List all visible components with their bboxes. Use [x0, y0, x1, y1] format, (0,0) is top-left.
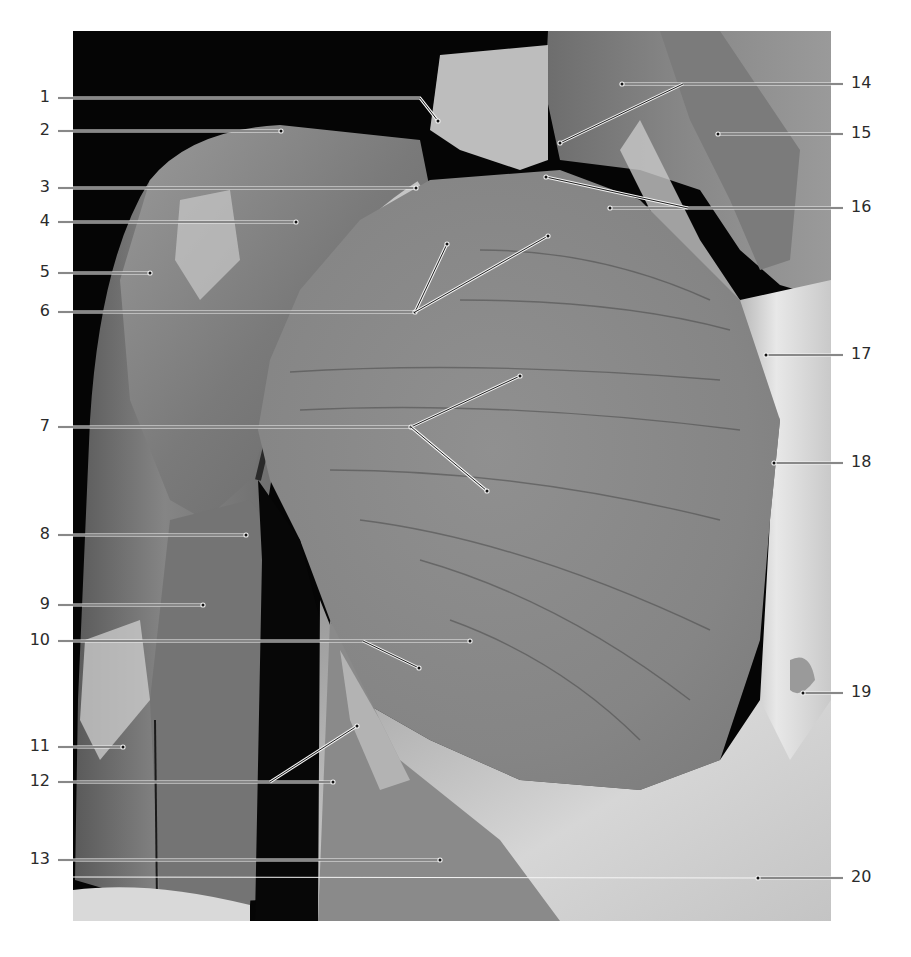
leader-endpoint-3 — [415, 187, 418, 190]
label-number-14: 14 — [851, 75, 891, 91]
leader-endpoint-6-0 — [446, 243, 449, 246]
leader-endpoint-9 — [202, 604, 205, 607]
leader-branch-6-1 — [415, 236, 548, 312]
label-number-9: 9 — [10, 596, 50, 612]
leader-branch-14-0 — [560, 84, 683, 143]
leader-endpoint-16-0 — [545, 176, 548, 179]
label-number-8: 8 — [10, 526, 50, 542]
label-number-7: 7 — [10, 418, 50, 434]
label-number-11: 11 — [10, 738, 50, 754]
leader-endpoint-4 — [295, 221, 298, 224]
leader-endpoint-10 — [469, 640, 472, 643]
leader-branch-16-0 — [546, 177, 688, 208]
label-number-19: 19 — [851, 684, 891, 700]
label-number-6: 6 — [10, 303, 50, 319]
leader-endpoint-18 — [773, 462, 776, 465]
label-number-4: 4 — [10, 213, 50, 229]
label-number-2: 2 — [10, 122, 50, 138]
leader-endpoint-12-0 — [356, 725, 359, 728]
anatomical-figure: 1234567891011121314151617181920 — [0, 0, 911, 957]
leader-endpoint-15 — [717, 133, 720, 136]
leader-endpoint-17 — [765, 354, 768, 357]
leader-endpoint-1 — [437, 120, 440, 123]
label-number-10: 10 — [10, 632, 50, 648]
leader-endpoint-16 — [609, 207, 612, 210]
leader-line-1 — [58, 98, 438, 121]
label-number-3: 3 — [10, 179, 50, 195]
leader-endpoint-19 — [802, 692, 805, 695]
label-number-1: 1 — [10, 89, 50, 105]
leader-lines — [0, 0, 911, 957]
leader-endpoint-14 — [621, 83, 624, 86]
leader-endpoint-20 — [757, 877, 760, 880]
leader-endpoint-8 — [245, 534, 248, 537]
leader-branch-12-0 — [270, 726, 357, 782]
leader-branch-10-0 — [363, 641, 419, 668]
leader-branch-7-0 — [411, 376, 520, 427]
leader-endpoint-6-1 — [547, 235, 550, 238]
label-number-16: 16 — [851, 199, 891, 215]
leader-endpoint-14-0 — [559, 142, 562, 145]
leader-endpoint-7-0 — [519, 375, 522, 378]
leader-endpoint-5 — [149, 272, 152, 275]
label-number-20: 20 — [851, 869, 891, 885]
leader-endpoint-7-1 — [486, 490, 489, 493]
label-number-17: 17 — [851, 346, 891, 362]
leader-endpoint-11 — [122, 746, 125, 749]
leader-endpoint-10-0 — [418, 667, 421, 670]
leader-endpoint-13 — [439, 859, 442, 862]
label-number-18: 18 — [851, 454, 891, 470]
label-number-15: 15 — [851, 125, 891, 141]
leader-endpoint-12 — [332, 781, 335, 784]
label-number-12: 12 — [10, 773, 50, 789]
leader-line-1-halo — [58, 98, 438, 121]
leader-branch-7-1 — [411, 427, 487, 491]
label-number-5: 5 — [10, 264, 50, 280]
leader-endpoint-2 — [280, 130, 283, 133]
label-number-13: 13 — [10, 851, 50, 867]
